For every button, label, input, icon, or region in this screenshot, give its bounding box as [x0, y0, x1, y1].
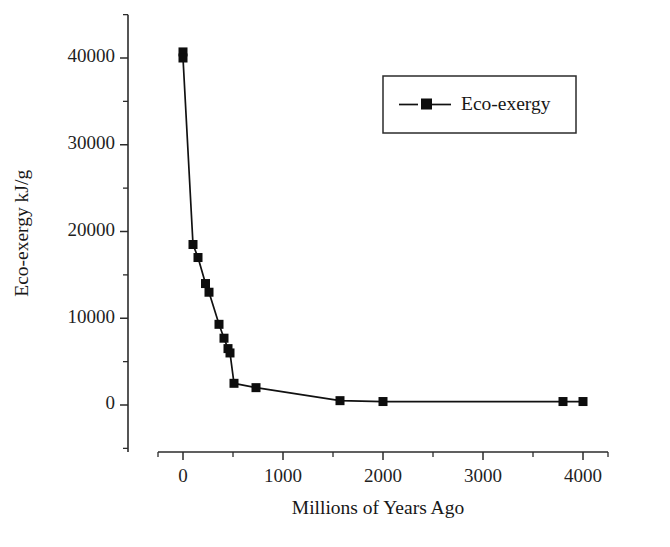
data-point-marker: [220, 334, 229, 343]
data-point-marker: [215, 320, 224, 329]
y-tick-label: 40000: [68, 45, 116, 66]
y-axis-major-ticks: [120, 58, 128, 405]
x-tick-label: 4000: [564, 465, 602, 486]
chart-figure: 01000200030004000 010000200003000040000 …: [0, 0, 670, 547]
x-axis-title: Millions of Years Ago: [292, 497, 464, 518]
x-axis-tick-labels: 01000200030004000: [178, 465, 602, 486]
data-point-marker: [230, 379, 239, 388]
data-point-marker: [336, 396, 345, 405]
data-point-marker: [252, 383, 261, 392]
data-point-marker: [201, 279, 210, 288]
data-point-marker: [194, 253, 203, 262]
y-tick-label: 30000: [68, 132, 116, 153]
y-tick-label: 10000: [68, 306, 116, 327]
y-tick-label: 0: [106, 392, 116, 413]
legend-entry-label: Eco-exergy: [461, 93, 551, 114]
data-point-marker: [379, 397, 388, 406]
x-tick-label: 2000: [364, 465, 402, 486]
data-point-marker: [205, 288, 214, 297]
x-tick-label: 0: [178, 465, 188, 486]
y-axis-title: Eco-exergy kJ/g: [11, 170, 32, 297]
data-point-marker: [579, 397, 588, 406]
data-point-marker: [189, 240, 198, 249]
data-point-marker: [226, 348, 235, 357]
x-axis-major-ticks: [183, 452, 583, 460]
x-tick-label: 3000: [464, 465, 502, 486]
data-point-marker: [559, 397, 568, 406]
eco-exergy-line-chart: 01000200030004000 010000200003000040000 …: [0, 0, 670, 547]
legend-marker-icon: [421, 99, 432, 110]
legend: Eco-exergy: [383, 76, 576, 133]
y-axis-tick-labels: 010000200003000040000: [68, 45, 116, 413]
data-point-marker: [179, 54, 188, 63]
x-tick-label: 1000: [264, 465, 302, 486]
y-tick-label: 20000: [68, 219, 116, 240]
